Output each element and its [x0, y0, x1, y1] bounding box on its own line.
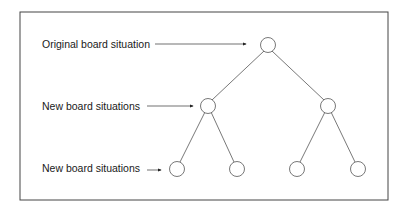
- label-arrows: [147, 44, 246, 170]
- edge: [331, 112, 355, 162]
- tree-nodes: [170, 38, 366, 177]
- label-original-board: Original board situation: [42, 38, 150, 50]
- label-new-board-level2: New board situations: [42, 162, 140, 174]
- edge: [211, 112, 234, 162]
- edge: [272, 51, 324, 100]
- edge: [300, 112, 325, 162]
- node-level2: [351, 162, 366, 177]
- node-level1: [201, 99, 216, 114]
- node-root: [261, 38, 276, 53]
- node-level1: [321, 99, 336, 114]
- edge: [180, 112, 205, 162]
- node-level2: [230, 162, 245, 177]
- edge: [212, 51, 264, 100]
- node-level2: [290, 162, 305, 177]
- game-tree-diagram: Original board situation New board situa…: [0, 0, 407, 209]
- label-new-board-level1: New board situations: [42, 100, 140, 112]
- node-level2: [170, 162, 185, 177]
